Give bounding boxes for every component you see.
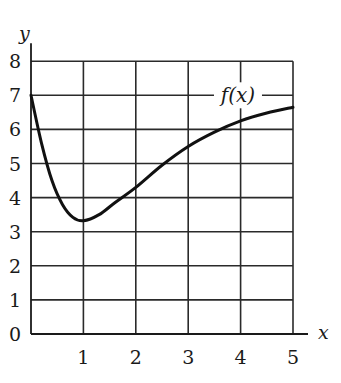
y-tick-label: 3 [9, 221, 21, 243]
y-tick-label: 2 [9, 255, 21, 277]
y-tick-label: 7 [9, 84, 21, 106]
x-tick-label: 5 [287, 346, 299, 368]
x-tick-label: 2 [130, 346, 142, 368]
curve-label: f(x) [219, 83, 255, 107]
axes [31, 43, 308, 334]
y-tick-label: 1 [9, 289, 21, 311]
y-tick-label: 8 [9, 50, 21, 72]
y-tick-labels: 012345678 [9, 50, 21, 345]
curve-label-group: f(x) [214, 82, 262, 108]
x-axis-label: x [318, 321, 329, 343]
x-tick-label: 1 [77, 346, 89, 368]
f-of-x-curve [31, 95, 293, 221]
x-tick-label: 3 [182, 346, 194, 368]
x-tick-label: 4 [235, 346, 247, 368]
y-axis-label: y [18, 22, 30, 44]
y-tick-label: 6 [9, 118, 21, 140]
y-tick-label: 0 [9, 323, 21, 345]
y-tick-label: 4 [9, 187, 21, 209]
function-graph: 012345678 12345 f(x) y x [0, 0, 341, 383]
y-tick-label: 5 [9, 153, 21, 175]
x-tick-labels: 12345 [77, 346, 299, 368]
